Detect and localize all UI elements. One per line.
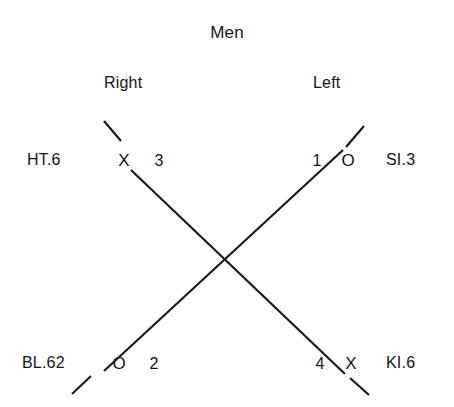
node-number-top-right: 1 [309, 153, 325, 169]
node-marker-top-left: X [113, 152, 135, 169]
label-bottom-right: KI.6 [386, 355, 415, 371]
stub-bottom-left [72, 376, 91, 394]
label-bottom-left: BL.62 [22, 355, 65, 371]
node-marker-bottom-left: O [108, 355, 130, 372]
crossing-lines [0, 0, 454, 407]
stub-top-left [104, 121, 121, 141]
node-marker-bottom-right: X [340, 355, 362, 372]
label-top-left: HT.6 [27, 152, 61, 168]
node-number-bottom-left: 2 [146, 356, 162, 372]
stub-bottom-right [350, 378, 369, 395]
diagram-canvas: Men Right Left HT.6 SI.3 BL.62 KI.6 X 3 … [0, 0, 454, 407]
stub-top-right [346, 126, 364, 147]
node-number-bottom-right: 4 [312, 356, 328, 372]
line-topleft-to-bottomright [131, 170, 345, 374]
node-number-top-left: 3 [151, 153, 167, 169]
label-top-right: SI.3 [386, 152, 415, 168]
node-marker-top-right: O [337, 152, 359, 169]
